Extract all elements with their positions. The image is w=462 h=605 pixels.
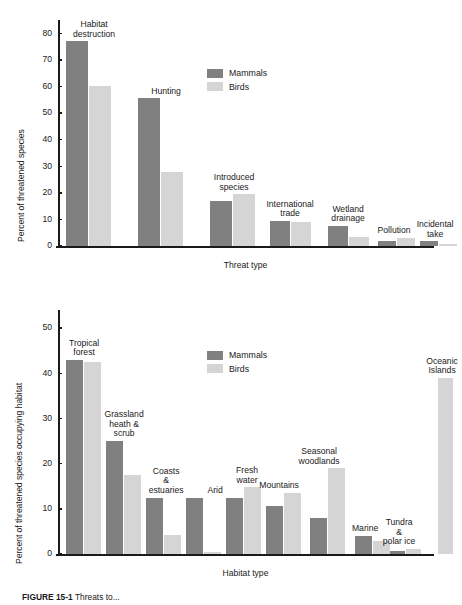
bar-group [422, 310, 453, 554]
legend-item-mammals: Mammals [207, 68, 267, 78]
figure-caption: FIGURE 15-1 Threats to... [22, 592, 442, 605]
legend-label-birds: Birds [229, 82, 249, 92]
y-tick-label: 30 [42, 413, 52, 423]
bar-mammals [270, 221, 290, 246]
y-tick-label: 70 [42, 54, 52, 64]
y-tick-label: 0 [47, 548, 52, 558]
category-label: Mountains [250, 481, 308, 491]
plot-area-bottom: 01020304050 Tropical forestGrassland hea… [58, 310, 433, 554]
legend-bottom: Mammals Birds [207, 350, 267, 377]
bar-mammals [106, 441, 123, 554]
bar-birds [84, 362, 101, 554]
bar-birds [161, 172, 183, 246]
legend-swatch-birds [207, 364, 223, 373]
y-tick-label: 10 [42, 214, 52, 224]
bar-mammals [355, 536, 372, 554]
bar-birds [328, 468, 345, 554]
legend-item-mammals: Mammals [207, 350, 267, 360]
bar-mammals [310, 518, 327, 554]
y-tick-label: 80 [42, 28, 52, 38]
bar-mammals [378, 241, 396, 246]
bar-mammals [138, 98, 160, 246]
y-tick-label: 20 [42, 187, 52, 197]
bar-birds [244, 487, 261, 554]
bar-birds [349, 237, 369, 246]
figure-caption-text: Threats to... [75, 592, 120, 602]
category-label: Introduced species [202, 173, 266, 192]
legend-swatch-mammals [207, 69, 223, 78]
bar-birds [438, 378, 453, 554]
y-tick-label: 50 [42, 322, 52, 332]
y-axis-label-bottom: Percent of threatened species occupying … [14, 383, 24, 564]
legend-item-birds: Birds [207, 364, 267, 374]
legend-swatch-birds [207, 82, 223, 91]
chart-threat-type: Percent of threatened species 0102030405… [0, 6, 448, 276]
x-axis-label-bottom: Habitat type [58, 568, 433, 578]
y-tick-label: 20 [42, 458, 52, 468]
bar-group [266, 310, 301, 554]
bar-birds [124, 475, 141, 554]
chart-habitat-type: Percent of threatened species occupying … [0, 296, 448, 586]
y-tick-label: 40 [42, 368, 52, 378]
x-axis-line-top [56, 246, 434, 248]
category-label: Tundra & polar ice [377, 518, 421, 547]
bar-mammals [390, 551, 405, 554]
legend-swatch-mammals [207, 351, 223, 360]
bar-mammals [210, 201, 232, 246]
bar-mammals [328, 226, 348, 246]
y-tick-label: 0 [47, 240, 52, 250]
legend-label-mammals: Mammals [229, 350, 267, 360]
plot-area-top: 01020304050607080 Habitat destructionHun… [58, 20, 433, 246]
bar-birds [233, 194, 255, 246]
x-axis-line-bottom [56, 554, 434, 556]
bar-group [310, 310, 345, 554]
bar-birds [439, 244, 457, 246]
y-tick-label: 30 [42, 161, 52, 171]
category-label: Seasonal woodlands [284, 447, 354, 466]
bar-birds [284, 493, 301, 554]
figure-caption-label: FIGURE 15-1 [22, 592, 73, 602]
bar-group [186, 310, 221, 554]
category-label: Coasts & estuaries [142, 467, 190, 496]
bar-mammals [266, 506, 283, 554]
category-label: Tropical forest [55, 339, 113, 358]
legend-item-birds: Birds [207, 82, 267, 92]
category-label: International trade [255, 200, 325, 219]
category-label: Incidental take [408, 220, 462, 239]
bar-birds [397, 238, 415, 246]
bar-mammals [66, 360, 83, 554]
bar-birds [204, 552, 221, 554]
bar-group-container-bottom: Tropical forestGrassland heath & scrubCo… [60, 310, 433, 554]
y-tick-label: 60 [42, 81, 52, 91]
y-tick-label: 50 [42, 107, 52, 117]
category-label: Hunting [140, 87, 192, 97]
bar-mammals [420, 241, 438, 246]
bar-group [66, 20, 111, 246]
bar-birds [164, 535, 181, 554]
bar-group [138, 20, 183, 246]
bar-group [210, 20, 255, 246]
category-label: Grassland heath & scrub [95, 410, 153, 439]
bar-group [226, 310, 261, 554]
y-tick-label: 10 [42, 503, 52, 513]
bar-group-container-top: Habitat destructionHuntingIntroduced spe… [60, 20, 433, 246]
legend-top: Mammals Birds [207, 68, 267, 95]
bar-mammals [186, 498, 203, 554]
bar-mammals [66, 41, 88, 246]
legend-label-mammals: Mammals [229, 68, 267, 78]
category-label: Habitat destruction [59, 20, 129, 39]
bar-birds [291, 222, 311, 246]
category-label: Wetland drainage [319, 205, 377, 224]
bar-mammals [146, 498, 163, 554]
x-axis-label-top: Threat type [58, 260, 433, 270]
bar-birds [406, 549, 421, 554]
bar-mammals [226, 498, 243, 554]
bar-birds [89, 86, 111, 246]
y-tick-label: 40 [42, 134, 52, 144]
bar-group [146, 310, 181, 554]
bar-group [420, 20, 457, 246]
y-axis-label-top: Percent of threatened species [16, 129, 26, 242]
category-label: Oceanic Islands [417, 357, 462, 376]
legend-label-birds: Birds [229, 364, 249, 374]
